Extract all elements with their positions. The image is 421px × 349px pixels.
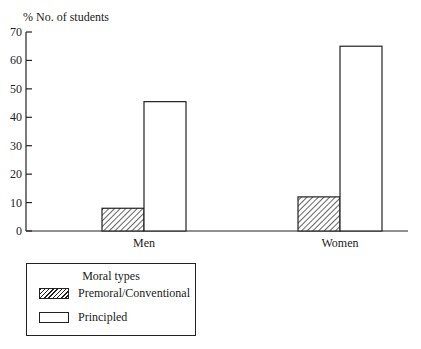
bar-men-principled: [144, 102, 186, 231]
y-tick-label: 40: [10, 110, 22, 124]
plain-swatch-icon: [39, 312, 69, 323]
y-tick-label: 70: [10, 25, 22, 39]
category-label: Women: [321, 236, 358, 250]
legend: Moral types Premoral/Conventional Princi…: [26, 263, 196, 336]
legend-item-principled: Principled: [39, 310, 127, 325]
bar-women-principled: [340, 46, 382, 231]
y-tick-label: 20: [10, 167, 22, 181]
legend-label: Principled: [78, 310, 127, 325]
bar-women-premoral-conventional: [298, 197, 340, 231]
bar-men-premoral-conventional: [102, 208, 144, 231]
bars: [102, 46, 382, 231]
legend-item-premoral-conventional: Premoral/Conventional: [39, 286, 190, 301]
y-tick-label: 10: [10, 196, 22, 210]
y-tick-label: 50: [10, 82, 22, 96]
legend-label: Premoral/Conventional: [78, 286, 190, 301]
legend-title: Moral types: [27, 269, 195, 284]
category-label: Men: [133, 236, 155, 250]
y-tick-label: 30: [10, 139, 22, 153]
y-axis-ticks: 010203040506070: [10, 25, 32, 238]
hatched-swatch-icon: [39, 288, 69, 299]
y-tick-label: 0: [16, 224, 22, 238]
y-tick-label: 60: [10, 53, 22, 67]
category-labels: MenWomen: [133, 236, 359, 250]
